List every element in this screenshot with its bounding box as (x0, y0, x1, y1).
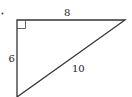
right-triangle-diagram: 8 6 10 (0, 0, 132, 97)
bullet-dot (2, 13, 4, 15)
top-side-label: 8 (64, 7, 70, 18)
right-angle-marker (17, 20, 26, 29)
triangle-shape (17, 20, 125, 97)
hypotenuse-label: 10 (72, 63, 85, 74)
left-side-label: 6 (9, 53, 15, 64)
